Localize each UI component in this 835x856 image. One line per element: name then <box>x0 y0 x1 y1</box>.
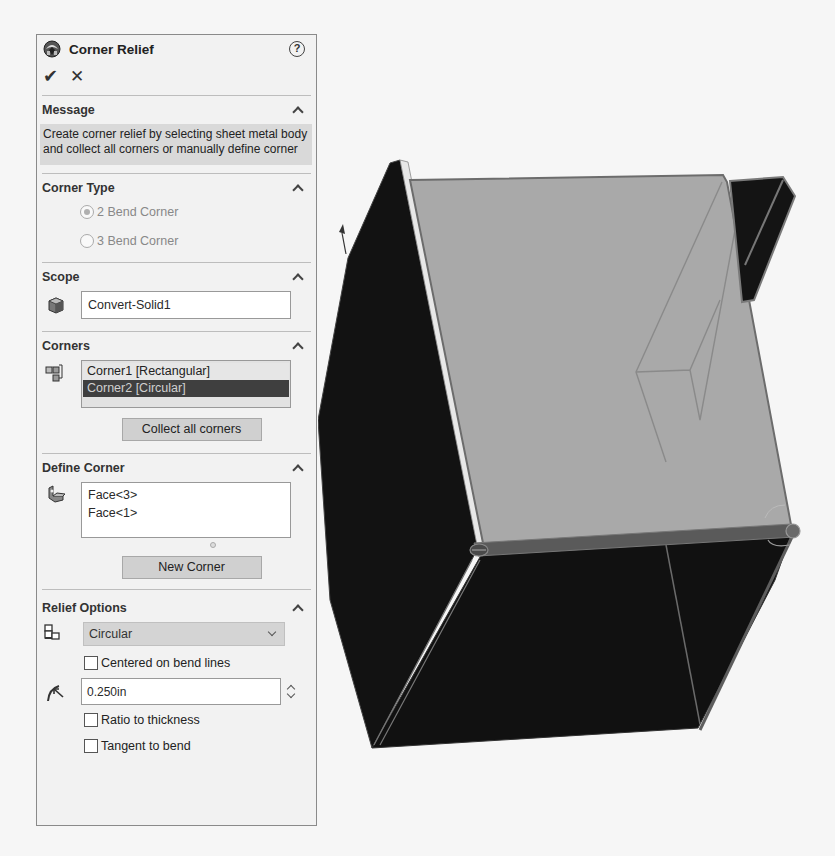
checkbox[interactable] <box>84 656 98 670</box>
faces-row: Face<3> Face<1> <box>42 482 311 538</box>
chevron-up-icon[interactable] <box>293 272 303 282</box>
relief-type-icon <box>43 623 65 645</box>
radio-2-bend-corner[interactable]: 2 Bend Corner <box>42 198 311 226</box>
corner-type-section: Corner Type 2 Bend Corner 3 Bend Corner <box>42 173 311 256</box>
centered-on-bend-lines-option[interactable]: Centered on bend lines <box>42 650 311 676</box>
collect-all-corners-button[interactable]: Collect all corners <box>122 418 262 441</box>
chevron-up-icon[interactable] <box>293 341 303 351</box>
faces-selection-box[interactable]: Face<3> Face<1> <box>81 482 291 538</box>
relief-type-dropdown[interactable]: Circular <box>83 622 285 646</box>
ok-check-icon[interactable]: ✔ <box>43 67 58 85</box>
relief-radius-input[interactable]: 0.250in <box>81 678 281 705</box>
radio-button[interactable] <box>80 205 94 219</box>
checkbox[interactable] <box>84 739 98 753</box>
chevron-up-icon[interactable] <box>293 105 303 115</box>
corner-relief-icon <box>43 40 61 58</box>
corners-tree-icon <box>45 362 67 384</box>
checkbox-label: Ratio to thickness <box>101 713 200 727</box>
radio-button[interactable] <box>80 234 94 248</box>
radio-3-bend-corner[interactable]: 3 Bend Corner <box>42 226 311 256</box>
cancel-x-icon[interactable]: ✕ <box>70 68 84 85</box>
scope-section: Scope Convert-Solid1 <box>42 262 311 319</box>
relief-type-value: Circular <box>89 627 132 641</box>
resize-handle[interactable] <box>210 542 216 548</box>
triad-arrow-icon <box>339 224 346 254</box>
section-title: Message <box>42 103 95 117</box>
section-title: Define Corner <box>42 461 125 475</box>
checkbox-label: Centered on bend lines <box>101 656 230 670</box>
spin-down-icon[interactable] <box>287 694 295 699</box>
checkbox-label: Tangent to bend <box>101 739 191 753</box>
relief-radius-row: 0.250in <box>42 678 311 705</box>
section-title: Corners <box>42 339 90 353</box>
ratio-to-thickness-option[interactable]: Ratio to thickness <box>42 707 311 733</box>
radius-spinner[interactable] <box>285 678 297 705</box>
relief-options-section: Relief Options Circular Centered on bend… <box>42 589 311 759</box>
solid-body-icon <box>45 294 67 316</box>
section-title: Scope <box>42 270 80 284</box>
define-corner-section: Define Corner Face<3> Face<1> New Corner <box>42 453 311 579</box>
radio-label: 3 Bend Corner <box>97 234 178 248</box>
relief-options-section-header[interactable]: Relief Options <box>42 594 311 622</box>
radio-label: 2 Bend Corner <box>97 205 178 219</box>
corners-listbox[interactable]: Corner1 [Rectangular] Corner2 [Circular] <box>81 360 291 408</box>
new-corner-button[interactable]: New Corner <box>122 556 262 579</box>
corner-relief-left-marker[interactable] <box>470 544 488 556</box>
face-item[interactable]: Face<1> <box>88 504 284 522</box>
section-title: Corner Type <box>42 181 115 195</box>
action-buttons: ✔ ✕ <box>37 63 316 89</box>
corners-list-row: Corner1 [Rectangular] Corner2 [Circular] <box>42 360 311 408</box>
corners-section: Corners Corner1 [Rectangular] Corner2 [C… <box>42 331 311 441</box>
back-right-flange-face[interactable] <box>730 177 795 302</box>
spin-up-icon[interactable] <box>287 685 295 690</box>
message-text: Create corner relief by selecting sheet … <box>40 124 312 165</box>
message-section-header[interactable]: Message <box>42 96 311 124</box>
list-item-corner1[interactable]: Corner1 [Rectangular] <box>83 363 289 380</box>
list-item-corner2[interactable]: Corner2 [Circular] <box>83 380 289 397</box>
corner-relief-property-manager: Corner Relief ? ✔ ✕ Message Create corne… <box>36 34 317 826</box>
checkbox[interactable] <box>84 713 98 727</box>
radius-icon <box>45 681 67 703</box>
chevron-up-icon[interactable] <box>293 183 303 193</box>
define-corner-section-header[interactable]: Define Corner <box>42 454 311 482</box>
chevron-up-icon[interactable] <box>293 603 303 613</box>
chevron-up-icon[interactable] <box>293 463 303 473</box>
message-section: Message Create corner relief by selectin… <box>42 95 311 165</box>
panel-title: Corner Relief <box>69 42 289 57</box>
scope-body-row: Convert-Solid1 <box>42 291 311 319</box>
scope-body-field[interactable]: Convert-Solid1 <box>81 291 291 319</box>
scope-section-header[interactable]: Scope <box>42 263 311 291</box>
help-icon[interactable]: ? <box>289 41 305 57</box>
chevron-down-icon <box>268 630 276 638</box>
face-item[interactable]: Face<3> <box>88 486 284 504</box>
section-title: Relief Options <box>42 601 127 615</box>
panel-header: Corner Relief ? <box>37 35 316 63</box>
relief-type-row: Circular <box>42 622 311 646</box>
graphics-viewport[interactable] <box>318 0 835 856</box>
tangent-to-bend-option[interactable]: Tangent to bend <box>42 733 311 759</box>
corners-section-header[interactable]: Corners <box>42 332 311 360</box>
corner-faces-icon <box>45 484 67 506</box>
